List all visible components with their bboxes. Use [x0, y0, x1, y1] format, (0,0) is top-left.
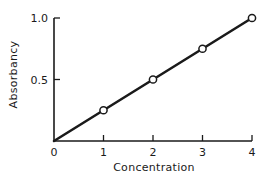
data-point-marker [149, 76, 156, 83]
y-axis-label: Absorbancy [7, 40, 20, 108]
x-tick-label: 0 [51, 146, 58, 159]
x-axis: 01234 [51, 135, 256, 159]
data-series [54, 14, 256, 141]
y-tick-label: 0.5 [31, 74, 49, 87]
data-point-marker [199, 45, 206, 52]
x-tick-label: 3 [199, 146, 206, 159]
y-ticks: 0.51.0 [31, 12, 61, 87]
data-point-marker [248, 14, 255, 21]
x-tick-label: 1 [100, 146, 107, 159]
x-tick-label: 2 [150, 146, 157, 159]
data-point-marker [100, 107, 107, 114]
y-tick-label: 1.0 [31, 12, 49, 25]
chart: 0.51.0 01234 Concentration Absorbancy [0, 0, 268, 179]
x-ticks: 01234 [51, 135, 256, 159]
x-tick-label: 4 [249, 146, 256, 159]
x-axis-label: Concentration [113, 161, 195, 174]
y-axis: 0.51.0 [31, 12, 61, 141]
